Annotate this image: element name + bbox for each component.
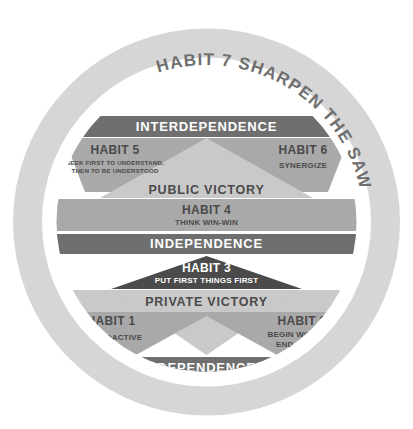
habit-5-number: HABIT 5 [91,143,140,157]
independence-band: INDEPENDENCE [40,234,373,254]
habit-4-band: HABIT 4 THINK WIN-WIN [56,199,357,231]
public-victory-block: PUBLIC VICTORY [148,183,264,197]
seven-habits-diagram: HABIT 7 SHARPEN THE SAW INTERDEPENDENCE … [0,0,413,429]
habit-1-number: HABIT 1 [87,314,136,328]
habit-2-number: HABIT 2 [278,314,327,328]
habit-6-name: SYNERGIZE [279,161,327,170]
interdependence-label: INTERDEPENDENCE [136,119,277,134]
independence-label: INDEPENDENCE [150,236,263,251]
habit-5-name-line1: SEEK FIRST TO UNDERSTAND, [66,159,164,166]
habit-4-number: HABIT 4 [182,203,231,217]
habit-6-number: HABIT 6 [279,143,328,157]
habit-6-block: HABIT 6 SYNERGIZE [279,143,328,170]
habit-4-name: THINK WIN-WIN [175,218,238,227]
public-victory-label: PUBLIC VICTORY [148,183,264,197]
interdependence-band: INTERDEPENDENCE [64,116,349,137]
habit-3-name: PUT FIRST THINGS FIRST [155,276,259,285]
habit-3-block: HABIT 3 PUT FIRST THINGS FIRST [111,256,302,289]
dependence-label: DEPENDENCE [157,360,255,375]
habit-5-name-line2: THEN TO BE UNDERSTOOD [71,167,158,174]
habit-3-number: HABIT 3 [182,261,231,275]
private-victory-label: PRIVATE VICTORY [145,295,268,309]
